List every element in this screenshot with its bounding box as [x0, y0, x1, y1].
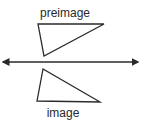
image-triangle — [37, 69, 100, 102]
preimage-label: preimage — [40, 7, 90, 19]
image-label: image — [47, 107, 80, 119]
reflection-diagram: preimage image — [0, 0, 142, 125]
preimage-triangle — [38, 24, 104, 56]
